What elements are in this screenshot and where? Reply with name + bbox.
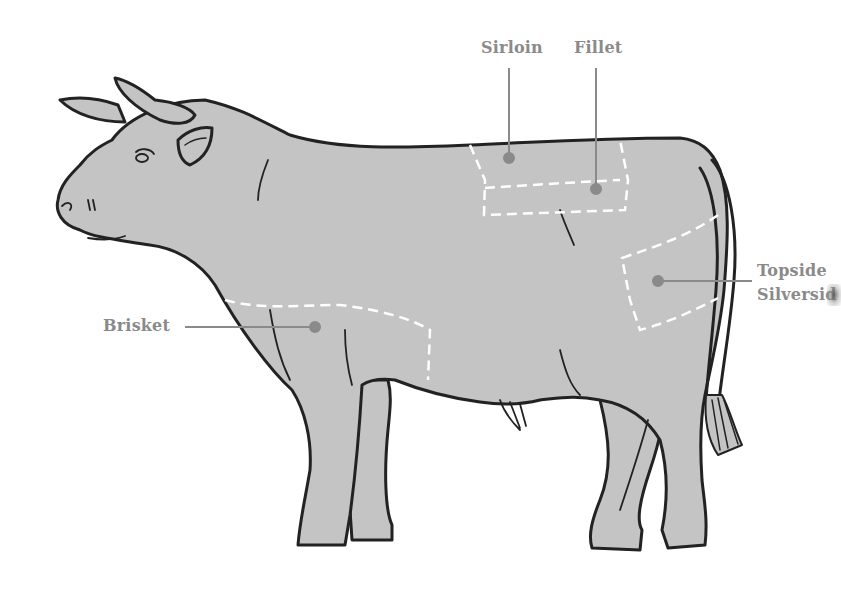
page-edge-shadow bbox=[827, 284, 841, 306]
label-fillet: Fillet bbox=[574, 38, 622, 57]
topside-marker bbox=[653, 276, 663, 286]
sirloin-marker bbox=[504, 153, 514, 163]
label-topside: Topside bbox=[757, 261, 827, 280]
cow-body bbox=[57, 78, 742, 550]
label-sirloin: Sirloin bbox=[481, 38, 543, 57]
label-silverside: Silversid bbox=[757, 285, 837, 304]
brisket-marker bbox=[310, 322, 320, 332]
label-brisket: Brisket bbox=[103, 316, 170, 335]
fillet-marker bbox=[591, 184, 601, 194]
